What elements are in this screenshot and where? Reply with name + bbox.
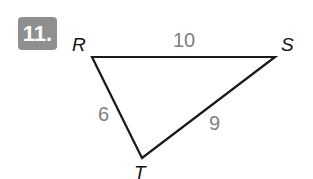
triangle-rst [92, 57, 275, 158]
vertex-label-r: R [72, 34, 86, 55]
triangle-diagram: R S T 10 6 9 [0, 0, 313, 179]
side-label-rs: 10 [173, 29, 195, 51]
side-label-st: 9 [209, 112, 220, 134]
vertex-label-t: T [134, 162, 147, 179]
side-label-rt: 6 [98, 103, 109, 125]
vertex-label-s: S [281, 34, 294, 55]
